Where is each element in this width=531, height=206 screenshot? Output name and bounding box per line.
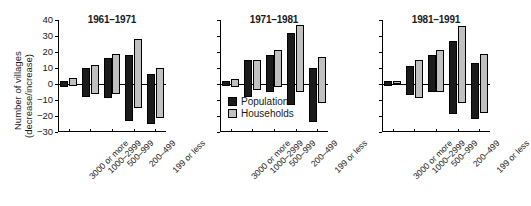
y-tick-label: 10 (42, 63, 53, 73)
chart-legend: PopulationHouseholds (228, 96, 294, 120)
y-tick (379, 100, 382, 101)
y-tick (379, 68, 382, 69)
chart-panel-1: 1961–1971403020100−10−20−303000 or more1… (58, 16, 166, 132)
y-tick (379, 36, 382, 37)
x-tick (414, 129, 415, 132)
bar-population-5 (471, 63, 479, 119)
x-axis-labels: 3000 or more1000–2999500–999200–499199 o… (382, 136, 490, 206)
bar-population-3 (104, 58, 112, 98)
legend-swatch-households (228, 109, 237, 118)
bar-households-4 (134, 39, 142, 108)
y-tick (55, 116, 58, 117)
bar-households-5 (318, 57, 326, 103)
y-axis-title-line2: (decrease/increase) (23, 54, 34, 138)
y-axis-line (220, 20, 221, 131)
x-tick (155, 129, 156, 132)
y-tick (217, 20, 220, 21)
x-axis-labels: 3000 or more1000–2999500–999200–499199 o… (58, 136, 166, 206)
x-tick (134, 129, 135, 132)
bar-households-4 (458, 26, 466, 103)
legend-label: Households (241, 108, 294, 119)
bar-population-3 (266, 55, 274, 92)
y-tick-label: 30 (42, 31, 53, 41)
bar-households-3 (112, 54, 120, 94)
y-tick-label: −10 (37, 95, 53, 105)
y-tick (379, 84, 382, 85)
chart-panel-3: 1981–19913000 or more1000–2999500–999200… (382, 16, 490, 132)
y-tick-label: −20 (37, 111, 53, 121)
y-tick (217, 68, 220, 69)
bar-population-1 (60, 81, 68, 87)
y-tick (379, 52, 382, 53)
y-tick (217, 84, 220, 85)
y-tick (217, 36, 220, 37)
y-axis-title: Number of villages (decrease/increase) (0, 16, 30, 132)
y-tick (217, 52, 220, 53)
x-tick (69, 129, 70, 132)
x-axis-labels: 3000 or more1000–2999500–999200–499199 o… (220, 136, 328, 206)
y-tick (379, 20, 382, 21)
y-tick-label: −30 (37, 127, 53, 137)
y-tick (55, 132, 58, 133)
bar-households-1 (393, 81, 401, 84)
bar-households-2 (415, 60, 423, 98)
x-tick (296, 129, 297, 132)
y-tick (55, 52, 58, 53)
legend-item-population: Population (228, 96, 294, 107)
y-tick (55, 84, 58, 85)
bar-households-2 (253, 60, 261, 90)
y-tick-label: 20 (42, 47, 53, 57)
y-axis-line (58, 20, 59, 131)
bar-population-4 (287, 33, 295, 105)
bar-population-5 (309, 68, 317, 122)
y-tick (55, 36, 58, 37)
x-tick (90, 129, 91, 132)
bar-population-2 (406, 66, 414, 95)
y-axis-line (382, 20, 383, 131)
y-tick (379, 116, 382, 117)
bar-households-3 (274, 50, 282, 87)
x-tick (231, 129, 232, 132)
x-tick (393, 129, 394, 132)
bar-households-3 (436, 50, 444, 92)
y-tick (379, 132, 382, 133)
legend-swatch-population (228, 97, 237, 106)
y-tick (55, 100, 58, 101)
x-tick (479, 129, 480, 132)
y-tick (217, 116, 220, 117)
y-tick (55, 68, 58, 69)
legend-item-households: Households (228, 108, 294, 119)
plot-area (382, 16, 490, 132)
bar-households-1 (69, 78, 77, 86)
y-tick-label: 0 (48, 79, 53, 89)
bar-population-2 (82, 68, 90, 97)
y-tick (55, 20, 58, 21)
x-tick (274, 129, 275, 132)
bar-population-4 (449, 41, 457, 115)
x-tick (436, 129, 437, 132)
x-tick (458, 129, 459, 132)
x-tick (317, 129, 318, 132)
bar-population-5 (147, 74, 155, 124)
x-tick (252, 129, 253, 132)
bar-population-2 (244, 60, 252, 97)
y-tick-label: 40 (42, 15, 53, 25)
bar-population-4 (125, 55, 133, 121)
bar-households-4 (296, 25, 304, 92)
y-axis-title-line1: Number of villages (12, 51, 23, 130)
bar-households-5 (156, 68, 164, 118)
bar-households-5 (480, 54, 488, 113)
plot-area: 403020100−10−20−30 (58, 16, 166, 132)
bar-households-1 (231, 79, 239, 87)
bar-population-1 (222, 81, 230, 86)
bar-population-1 (384, 81, 392, 86)
x-tick (112, 129, 113, 132)
bar-population-3 (428, 55, 436, 92)
y-tick (217, 100, 220, 101)
legend-label: Population (241, 96, 288, 107)
bar-households-2 (91, 65, 99, 94)
y-tick (217, 132, 220, 133)
